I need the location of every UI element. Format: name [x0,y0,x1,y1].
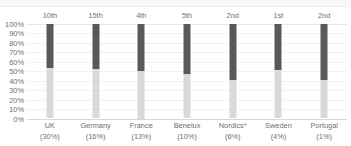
stacked-bar [275,24,282,119]
x-axis-category-share: (30%) [27,132,73,143]
x-axis-category-label: Portugal [310,121,338,130]
x-axis-category: Germany (16%) [73,121,119,145]
x-axis-category: Sweden (4%) [256,121,302,145]
x-axis-category-share: (1%) [301,132,347,143]
x-axis-category-share: (16%) [73,132,119,143]
x-axis-category: Benelux (10%) [164,121,210,145]
rank-label: 4th [118,9,164,22]
bar-segment-lower [184,74,191,119]
y-axis-tick: 0% [13,114,24,123]
bar-segment-upper [138,24,145,72]
x-axis-category: Portugal (1%) [301,121,347,145]
x-axis-category-label: Germany [80,121,110,130]
y-axis: 100% 90% 80% 70% 60% 50% 40% 30% 20% 10%… [0,24,24,119]
bar-slot [164,24,210,119]
x-axis-category-share: (13%) [118,132,164,143]
stacked-bar [46,24,53,119]
y-axis-tick: 40% [9,76,24,85]
x-axis-category-label: France [130,121,153,130]
x-axis-category-share: (6%) [210,132,256,143]
bar-slot [301,24,347,119]
bar-slot [256,24,302,119]
stacked-bar [229,24,236,119]
x-axis-category-label: UK [45,121,55,130]
bar-segment-upper [92,24,99,70]
stacked-bar [321,24,328,119]
x-axis-category: Nordics* (6%) [210,121,256,145]
x-axis-category-label: Benelux [174,121,201,130]
bar-segment-upper [184,24,191,74]
y-axis-tick: 20% [9,95,24,104]
bar-segment-lower [321,80,328,119]
rank-label-row: 10th 15th 4th 5th 2nd 1st 2nd [27,9,347,22]
top-divider [2,6,347,7]
bar-segment-lower [92,69,99,118]
bar-segment-upper [275,24,282,71]
y-axis-tick: 90% [9,29,24,38]
x-axis-category-share: (10%) [164,132,210,143]
y-axis-tick: 30% [9,86,24,95]
stacked-bar-chart: 10th 15th 4th 5th 2nd 1st 2nd 100% 90% 8… [0,0,351,146]
bar-segment-upper [321,24,328,80]
bar-segment-upper [46,24,53,69]
rank-label: 2nd [210,9,256,22]
x-axis: UK (30%) Germany (16%) France (13%) Bene… [27,121,347,145]
bar-group [27,24,347,119]
bar-slot [73,24,119,119]
y-axis-tick: 50% [9,67,24,76]
bar-slot [118,24,164,119]
x-axis-category: UK (30%) [27,121,73,145]
stacked-bar [184,24,191,119]
rank-label: 10th [27,9,73,22]
x-axis-category: France (13%) [118,121,164,145]
bar-segment-upper [229,24,236,80]
rank-label: 1st [256,9,302,22]
x-axis-category-label: Sweden [265,121,292,130]
rank-label: 15th [73,9,119,22]
plot-area [27,24,347,119]
x-axis-baseline [27,119,347,120]
y-axis-tick: 60% [9,57,24,66]
bar-slot [27,24,73,119]
x-axis-category-share: (4%) [256,132,302,143]
bar-slot [210,24,256,119]
stacked-bar [138,24,145,119]
y-axis-tick: 70% [9,48,24,57]
bar-segment-lower [138,71,145,119]
stacked-bar [92,24,99,119]
y-axis-tick: 80% [9,38,24,47]
x-axis-category-label: Nordics* [219,121,247,130]
rank-label: 2nd [301,9,347,22]
bar-segment-lower [46,68,53,118]
bar-segment-lower [275,70,282,118]
rank-label: 5th [164,9,210,22]
bar-segment-lower [229,80,236,119]
y-axis-tick: 10% [9,105,24,114]
y-axis-tick: 100% [5,19,24,28]
